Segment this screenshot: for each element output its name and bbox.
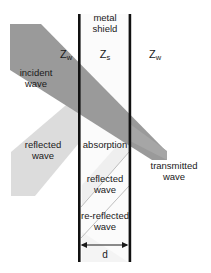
reflected-wave-inner-label: reflected wave (80, 173, 130, 195)
impedance-shield-subscript: s (106, 53, 110, 62)
re-reflected-wave-label: re-reflected wave (78, 210, 132, 232)
reflected-wave-outer-label: reflected wave (14, 139, 72, 161)
thickness-label: d (85, 249, 125, 260)
impedance-left-subscript: w (67, 53, 72, 62)
impedance-shield-label: Zs (95, 48, 115, 62)
diagram-canvas (0, 0, 211, 273)
shielding-diagram: metal shield Zw Zs Zw incident wave refl… (0, 0, 211, 273)
incident-wave-label: incident wave (7, 67, 65, 89)
transmitted-wave-label: transmitted wave (139, 160, 209, 182)
absorption-label: absorption (80, 139, 130, 150)
impedance-left-label: Zw (56, 48, 76, 62)
impedance-right-label: Zw (145, 48, 165, 62)
impedance-right-subscript: w (156, 53, 161, 62)
metal-shield-label: metal shield (83, 12, 127, 34)
